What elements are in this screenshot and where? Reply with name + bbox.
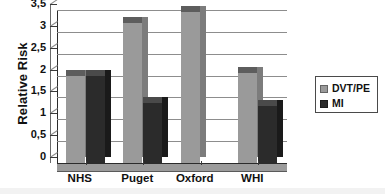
x-axis-tick — [143, 161, 144, 165]
legend-item: DVT/PE — [320, 81, 377, 96]
y-axis-tick-label: 2,5 — [12, 42, 46, 53]
bar — [143, 97, 168, 163]
x-axis-tick — [258, 161, 259, 165]
gridline — [57, 10, 287, 11]
bar-side-face — [200, 6, 206, 157]
bar-side-face — [162, 97, 168, 157]
bar-front-face — [143, 103, 162, 163]
y-axis-tick-label: 3,5 — [12, 0, 46, 9]
legend-item-label: MI — [332, 98, 344, 109]
plot-area — [57, 10, 287, 163]
gridline — [57, 32, 287, 33]
gridline — [57, 54, 287, 55]
y-axis-tick — [50, 135, 57, 136]
page-edge-artifact — [0, 188, 385, 194]
bar-chart: Relative Risk 00,511,522,533,5 NHSPugetO… — [0, 0, 385, 194]
bar-front-face — [86, 76, 105, 163]
chart-legend: DVT/PEMI — [315, 76, 378, 113]
legend-item: MI — [320, 96, 377, 111]
x-axis-tick-label: NHS — [51, 172, 109, 184]
bar — [181, 6, 206, 163]
bar-side-face — [277, 100, 283, 157]
x-axis-line — [57, 163, 287, 164]
bar-front-face — [181, 12, 200, 163]
y-axis-tick-label: 2 — [12, 64, 46, 75]
y-axis-tick — [50, 4, 57, 5]
bar — [86, 70, 111, 163]
x-axis-tick — [86, 161, 87, 165]
y-axis-tick-labels: 00,511,522,533,5 — [12, 0, 46, 194]
x-axis-tick — [201, 161, 202, 165]
y-axis-tick — [50, 113, 57, 114]
legend-swatch-dvt-pe-icon — [320, 85, 328, 93]
legend-item-label: DVT/PE — [332, 83, 370, 94]
x-axis-tick-label: Oxford — [166, 172, 224, 184]
y-axis-tick-label: 0,5 — [12, 129, 46, 140]
y-axis-tick — [50, 70, 57, 71]
bar-side-face — [105, 70, 111, 157]
y-axis-tick-label: 0 — [12, 151, 46, 162]
legend-swatch-mi-icon — [320, 100, 328, 108]
bar-front-face — [258, 106, 277, 163]
y-axis-tick-label: 1 — [12, 107, 46, 118]
bar-front-face — [66, 76, 85, 163]
y-axis-tick — [50, 91, 57, 92]
y-axis-tick-label: 3 — [12, 20, 46, 31]
y-axis-tick — [50, 157, 57, 158]
bar-front-face — [123, 23, 142, 163]
y-axis-tick-label: 1,5 — [12, 85, 46, 96]
bar-front-face — [238, 73, 257, 163]
bar — [258, 100, 283, 163]
chart-floor — [57, 163, 287, 171]
x-axis-tick-label: Puget — [109, 172, 167, 184]
y-axis-tick — [50, 48, 57, 49]
y-axis-back-line — [50, 4, 51, 163]
x-axis-tick-label: WHI — [224, 172, 282, 184]
y-axis-tick — [50, 26, 57, 27]
